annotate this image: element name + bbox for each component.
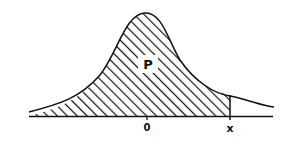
zero-label: 0: [144, 122, 151, 133]
x-label: x: [226, 122, 233, 135]
shaded-region: [29, 13, 230, 116]
normal-curve-diagram: P 0 x: [0, 0, 296, 147]
p-label: P: [143, 57, 153, 72]
